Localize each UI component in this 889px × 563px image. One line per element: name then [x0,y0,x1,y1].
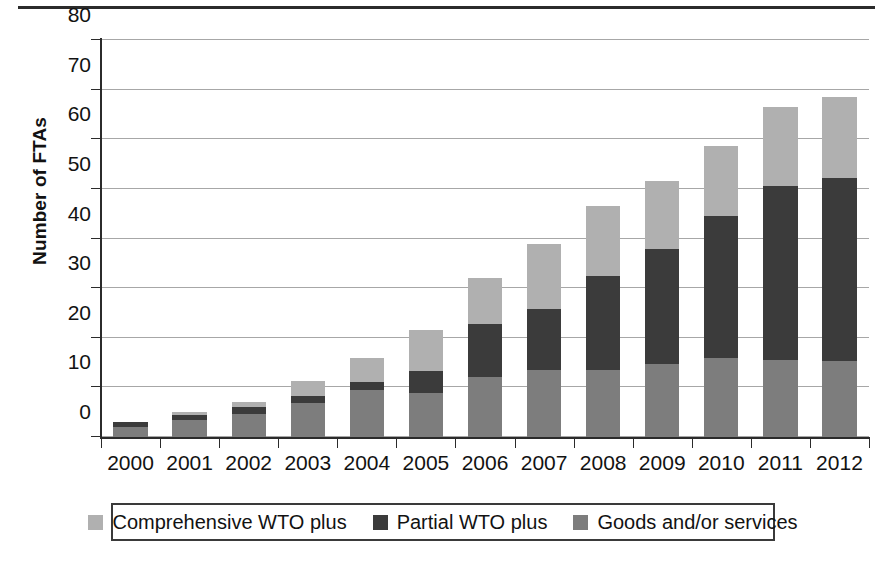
bar-group-2010[interactable] [704,40,738,437]
x-tick-label-2001: 2001 [160,451,219,475]
bar-group-2012[interactable] [822,40,856,437]
x-tick-label-2004: 2004 [337,451,396,475]
bar-segment [645,364,679,437]
bar-segment [763,107,797,186]
bar-stack [586,206,620,437]
y-tick-mark [91,436,100,437]
x-tick-label-2007: 2007 [515,451,574,475]
y-tick-mark [91,39,100,40]
bar-segment [822,361,856,437]
x-tick-label-2011: 2011 [751,451,810,475]
stacked-bar-chart-figure: Number of FTAs 01020304050607080 2000200… [0,0,889,563]
legend-label: Goods and/or services [597,512,797,532]
bar-segment [704,216,738,357]
y-tick-mark [91,238,100,239]
x-tick-mark [633,439,634,448]
bar-stack [113,422,147,437]
bar-stack [172,412,206,437]
legend-swatch-icon [88,515,103,530]
y-tick-mark [91,386,100,387]
legend-label: Comprehensive WTO plus [112,512,346,532]
y-tick-mark [91,138,100,139]
bar-segment [527,309,561,370]
bar-segment [468,278,502,324]
bar-segment [291,403,325,437]
bar-group-2004[interactable] [350,40,384,437]
y-tick-label: 70 [51,53,91,77]
bar-group-2007[interactable] [527,40,561,437]
y-tick-label: 20 [51,301,91,325]
bar-group-2009[interactable] [645,40,679,437]
bar-segment [586,370,620,437]
legend-swatch-icon [573,515,588,530]
bar-stack [704,146,738,437]
chart-legend: Comprehensive WTO plusPartial WTO plusGo… [111,503,775,541]
x-tick-label-2006: 2006 [455,451,514,475]
y-tick-mark [91,337,100,338]
y-tick-label: 40 [51,202,91,226]
legend-item[interactable]: Partial WTO plus [373,512,548,532]
bar-segment [527,244,561,309]
x-axis-ticks [101,439,869,449]
bar-group-2003[interactable] [291,40,325,437]
x-tick-label-2012: 2012 [810,451,869,475]
bar-segment [645,249,679,364]
bar-group-2000[interactable] [113,40,147,437]
y-tick-label: 60 [51,102,91,126]
legend-item[interactable]: Comprehensive WTO plus [88,512,346,532]
bar-group-2011[interactable] [763,40,797,437]
bar-group-2008[interactable] [586,40,620,437]
x-tick-mark [396,439,397,448]
x-tick-mark [278,439,279,448]
bar-segment [291,396,325,403]
bar-segment [586,206,620,276]
bar-segment [822,178,856,361]
bar-segment [172,420,206,437]
bar-stack [468,278,502,437]
x-tick-label-2009: 2009 [633,451,692,475]
bar-segment [350,382,384,389]
x-tick-label-2008: 2008 [574,451,633,475]
bar-segment [645,181,679,248]
bar-segment [586,276,620,369]
x-tick-label-2000: 2000 [101,451,160,475]
bar-stack [232,402,266,437]
bar-segment [113,427,147,437]
y-axis-tick-labels: 01020304050607080 [41,40,91,437]
y-tick-label: 80 [51,3,91,27]
bar-segment [409,371,443,393]
bar-segment [704,358,738,437]
bar-stack [291,381,325,437]
y-tick-label: 30 [51,251,91,275]
y-tick-mark [91,89,100,90]
bars-layer [101,40,869,437]
bar-group-2001[interactable] [172,40,206,437]
bar-segment [291,381,325,396]
x-tick-label-2005: 2005 [396,451,455,475]
bar-segment [527,370,561,437]
x-tick-mark [160,439,161,448]
bar-segment [409,393,443,437]
x-tick-mark [455,439,456,448]
x-tick-mark [869,439,870,448]
y-tick-label: 0 [51,400,91,424]
bar-group-2006[interactable] [468,40,502,437]
bar-stack [350,358,384,437]
bar-segment [350,358,384,382]
legend-swatch-icon [373,515,388,530]
bar-stack [645,181,679,437]
legend-item[interactable]: Goods and/or services [573,512,797,532]
x-tick-mark [692,439,693,448]
y-tick-mark [91,287,100,288]
bar-segment [232,414,266,437]
y-tick-mark [91,188,100,189]
x-tick-mark [101,439,102,448]
bar-segment [468,377,502,437]
bar-stack [822,97,856,437]
bar-segment [350,390,384,437]
bar-group-2002[interactable] [232,40,266,437]
bar-segment [763,360,797,437]
x-tick-mark [751,439,752,448]
bar-group-2005[interactable] [409,40,443,437]
x-axis-tick-labels: 2000200120022003200420052006200720082009… [101,451,869,483]
